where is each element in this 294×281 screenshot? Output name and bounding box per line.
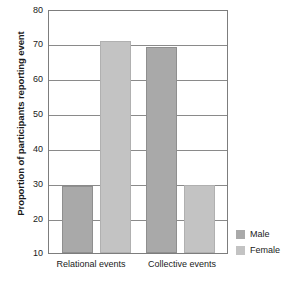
gridline-50 bbox=[49, 115, 227, 116]
bar-chart-figure: Proportion of participants reporting eve… bbox=[0, 0, 294, 281]
y-tick-label-10: 10 bbox=[3, 249, 43, 258]
legend: Male Female bbox=[236, 226, 280, 258]
y-tick-label-50: 50 bbox=[3, 110, 43, 119]
bar-collective-male bbox=[146, 47, 177, 253]
legend-swatch-female-icon bbox=[236, 246, 245, 255]
y-tick-label-60: 60 bbox=[3, 75, 43, 84]
y-tick-label-30: 30 bbox=[3, 180, 43, 189]
gridline-70 bbox=[49, 45, 227, 46]
legend-item-male: Male bbox=[236, 226, 280, 242]
y-tick-label-80: 80 bbox=[3, 6, 43, 15]
x-tick-label-collective: Collective events bbox=[140, 259, 224, 269]
legend-item-female: Female bbox=[236, 242, 280, 258]
bar-relational-female bbox=[100, 41, 131, 253]
y-tick-label-70: 70 bbox=[3, 40, 43, 49]
legend-label-female: Female bbox=[250, 245, 280, 255]
plot-area bbox=[48, 10, 228, 254]
gridline-40 bbox=[49, 150, 227, 151]
y-tick-label-40: 40 bbox=[3, 145, 43, 154]
bar-collective-female bbox=[184, 185, 215, 253]
legend-swatch-male-icon bbox=[236, 230, 245, 239]
y-axis-title: Proportion of participants reporting eve… bbox=[15, 0, 26, 249]
y-tick-label-20: 20 bbox=[3, 215, 43, 224]
bar-relational-male bbox=[62, 186, 93, 253]
gridline-60 bbox=[49, 80, 227, 81]
x-tick-label-relational: Relational events bbox=[48, 259, 134, 269]
legend-label-male: Male bbox=[250, 229, 270, 239]
